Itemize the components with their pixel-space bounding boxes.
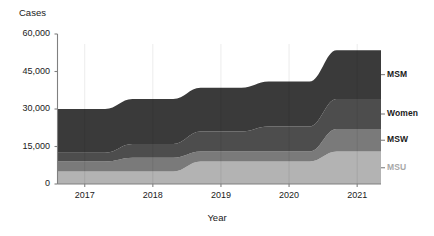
y-tick-label: 15,000 bbox=[6, 141, 50, 151]
x-tick-label: 2019 bbox=[191, 190, 251, 200]
y-tick-label: 0 bbox=[6, 178, 50, 188]
plot-area bbox=[0, 0, 434, 236]
x-tick-label: 2018 bbox=[123, 190, 183, 200]
series-label-msu: MSU bbox=[387, 162, 406, 172]
x-tick-label: 2020 bbox=[259, 190, 319, 200]
y-tick-label: 30,000 bbox=[6, 103, 50, 113]
series-label-msw: MSW bbox=[387, 134, 408, 144]
y-tick-label: 45,000 bbox=[6, 66, 50, 76]
stacked-area-chart: Cases Year 015,00030,00045,00060,000 201… bbox=[0, 0, 434, 236]
series-label-women: Women bbox=[387, 108, 418, 118]
y-tick-label: 60,000 bbox=[6, 28, 50, 38]
x-tick-label: 2017 bbox=[55, 190, 115, 200]
x-tick-label: 2021 bbox=[327, 190, 387, 200]
series-bands bbox=[58, 50, 382, 184]
series-label-msm: MSM bbox=[387, 69, 407, 79]
